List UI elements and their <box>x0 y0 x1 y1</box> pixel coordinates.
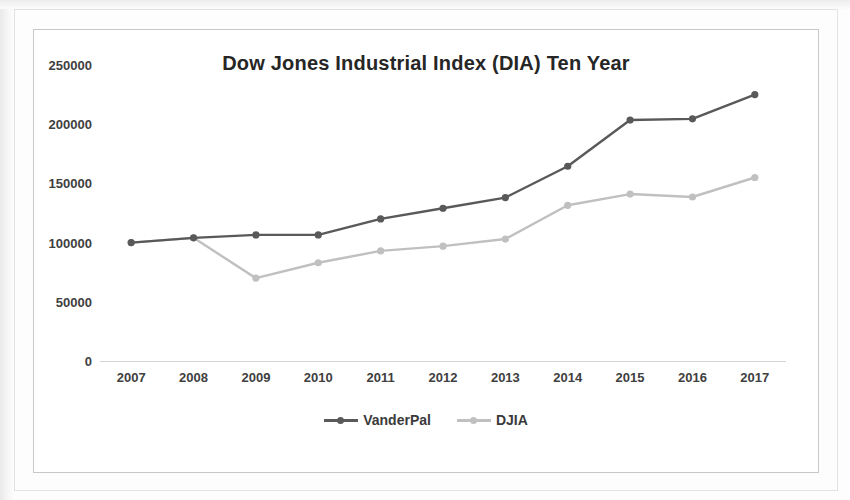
data-point-marker <box>377 215 384 222</box>
legend-line-marker-icon <box>324 415 358 425</box>
data-point-marker <box>751 174 758 181</box>
x-axis-tick-label: 2010 <box>304 370 333 385</box>
chart-container: Dow Jones Industrial Index (DIA) Ten Yea… <box>33 29 819 473</box>
legend-label: VanderPal <box>363 412 431 428</box>
plot-area <box>100 65 786 361</box>
legend-label: DJIA <box>496 412 528 428</box>
data-point-marker <box>252 231 259 238</box>
data-point-marker <box>190 234 197 241</box>
data-point-marker <box>377 247 384 254</box>
data-point-marker <box>439 243 446 250</box>
x-axis-tick-label: 2007 <box>117 370 146 385</box>
legend-item[interactable]: DJIA <box>457 412 528 428</box>
data-point-marker <box>689 193 696 200</box>
y-axis-tick-label: 200000 <box>49 117 92 132</box>
y-axis: 050000100000150000200000250000 <box>34 65 92 361</box>
data-point-marker <box>502 235 509 242</box>
x-axis-tick-label: 2008 <box>179 370 208 385</box>
series-line <box>131 177 755 278</box>
y-axis-tick-label: 250000 <box>49 58 92 73</box>
data-point-marker <box>751 91 758 98</box>
series-line <box>131 95 755 243</box>
data-point-marker <box>564 202 571 209</box>
data-point-marker <box>128 239 135 246</box>
x-axis-line <box>100 361 786 362</box>
legend-item[interactable]: VanderPal <box>324 412 431 428</box>
data-point-marker <box>315 231 322 238</box>
x-axis-tick-label: 2014 <box>553 370 582 385</box>
x-axis-tick-label: 2011 <box>367 370 395 385</box>
legend-line-marker-icon <box>457 415 491 425</box>
scanned-page-background: Dow Jones Industrial Index (DIA) Ten Yea… <box>0 0 850 500</box>
data-point-marker <box>626 190 633 197</box>
data-point-marker <box>689 115 696 122</box>
x-axis: 2007200820092010201120122013201420152016… <box>100 370 786 392</box>
chart-legend: VanderPalDJIA <box>34 412 818 428</box>
x-axis-tick-label: 2009 <box>241 370 270 385</box>
data-point-marker <box>502 194 509 201</box>
data-point-marker <box>439 205 446 212</box>
y-axis-tick-label: 50000 <box>56 294 92 309</box>
data-point-marker <box>564 163 571 170</box>
x-axis-tick-label: 2017 <box>740 370 769 385</box>
data-point-marker <box>252 275 259 282</box>
series-lines <box>100 65 786 361</box>
x-axis-tick-label: 2013 <box>491 370 520 385</box>
x-axis-tick-label: 2012 <box>429 370 458 385</box>
x-axis-tick-label: 2015 <box>616 370 645 385</box>
x-axis-tick-label: 2016 <box>678 370 707 385</box>
y-axis-tick-label: 0 <box>85 354 92 369</box>
data-point-marker <box>626 116 633 123</box>
y-axis-tick-label: 100000 <box>49 235 92 250</box>
data-point-marker <box>315 259 322 266</box>
y-axis-tick-label: 150000 <box>49 176 92 191</box>
